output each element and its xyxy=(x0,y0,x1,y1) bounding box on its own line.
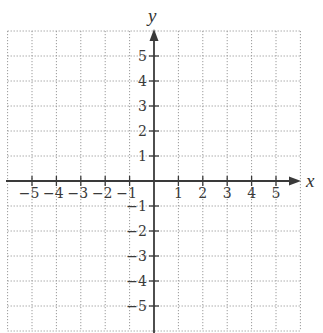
y-tick-label: −2 xyxy=(126,223,147,239)
x-axis-arrow-icon xyxy=(289,177,301,186)
axes xyxy=(6,29,301,333)
x-tick-label: 2 xyxy=(198,185,207,201)
y-tick-label: −3 xyxy=(126,248,147,264)
x-axis-label: x xyxy=(305,170,315,191)
x-tick-label: 4 xyxy=(247,185,256,201)
y-tick-label: 1 xyxy=(138,148,147,164)
x-tick-label: −2 xyxy=(92,185,113,201)
y-tick-label: 2 xyxy=(138,123,147,139)
x-tick-label: −4 xyxy=(43,185,64,201)
x-tick-labels: −5−4−3−2−112345 xyxy=(19,185,281,201)
x-tick-label: 3 xyxy=(223,185,232,201)
y-tick-label: 3 xyxy=(138,98,147,114)
y-tick-label: −4 xyxy=(126,273,147,289)
coordinate-plane: −5−4−3−2−112345 54321−1−2−3−4−5 x y xyxy=(0,0,323,333)
x-tick-label: −3 xyxy=(67,185,88,201)
y-tick-label: −1 xyxy=(126,198,147,214)
x-tick-label: 5 xyxy=(272,185,281,201)
y-axis-label: y xyxy=(146,5,157,26)
y-axis-arrow-icon xyxy=(150,29,159,41)
x-tick-label: −5 xyxy=(19,185,40,201)
y-tick-label: 5 xyxy=(138,48,147,64)
x-tick-label: 1 xyxy=(174,185,183,201)
y-tick-label: −5 xyxy=(126,298,147,314)
y-tick-label: 4 xyxy=(138,73,147,89)
